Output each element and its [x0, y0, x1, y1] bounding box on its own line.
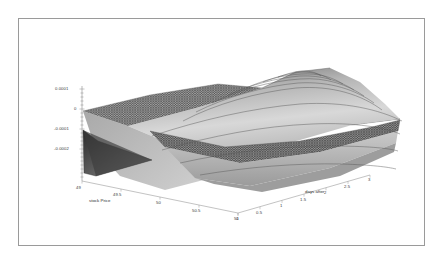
z-tick-label-3: -0.0002 [54, 146, 69, 151]
y-tick-label-2: 1 [280, 203, 282, 208]
x-tick-label-2: 50 [156, 200, 161, 205]
z-tick-label-0: 0.0001 [55, 86, 68, 91]
z-tick-label-1: 0 [74, 106, 76, 111]
z-tick-label-2: -0.0001 [54, 126, 69, 131]
x-axis-title: stock Price [89, 198, 110, 203]
surface-plot-canvas [0, 0, 447, 265]
y-axis-title: days after [305, 189, 324, 194]
x-tick-label-0: 49 [76, 185, 81, 190]
y-tick-label-1: 0.5 [256, 210, 262, 215]
x-tick-label-1: 49.5 [113, 192, 122, 197]
y-tick-label-0: 0 [236, 216, 238, 221]
y-tick-label-5: 2.5 [344, 184, 350, 189]
y-tick-label-3: 1.5 [300, 197, 306, 202]
x-tick-label-3: 50.5 [192, 208, 201, 213]
y-tick-label-6: 3 [368, 177, 370, 182]
surface-mesh [83, 68, 402, 192]
y-tick-label-4: 2 [324, 190, 326, 195]
